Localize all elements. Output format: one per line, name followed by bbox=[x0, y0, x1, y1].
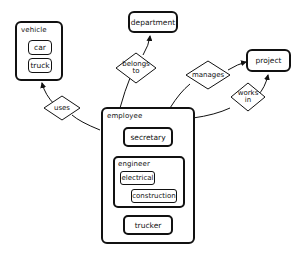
subtype-engineer: engineer electrical construction bbox=[113, 156, 185, 208]
subtype-trucker: trucker bbox=[123, 215, 173, 235]
relationship-belongs-to: belongsto bbox=[116, 53, 156, 83]
entity-label-vehicle: vehicle bbox=[21, 26, 47, 34]
entity-project: project bbox=[246, 49, 291, 72]
entity-employee: employee secretary engineer electrical c… bbox=[101, 107, 195, 244]
entity-label-employee: employee bbox=[107, 112, 142, 120]
relationship-manages: manages bbox=[186, 61, 230, 89]
relationship-uses: uses bbox=[44, 96, 80, 120]
subtype-electrical: electrical bbox=[120, 171, 155, 185]
entity-department: department bbox=[128, 11, 178, 33]
subtype-car: car bbox=[28, 40, 52, 55]
subtype-truck: truck bbox=[28, 58, 52, 73]
entity-vehicle: vehicle car truck bbox=[15, 21, 63, 81]
subtype-label-engineer: engineer bbox=[118, 160, 150, 168]
subtype-secretary: secretary bbox=[123, 127, 173, 147]
relationship-works-in: worksin bbox=[231, 83, 265, 111]
subtype-construction: construction bbox=[131, 189, 177, 203]
